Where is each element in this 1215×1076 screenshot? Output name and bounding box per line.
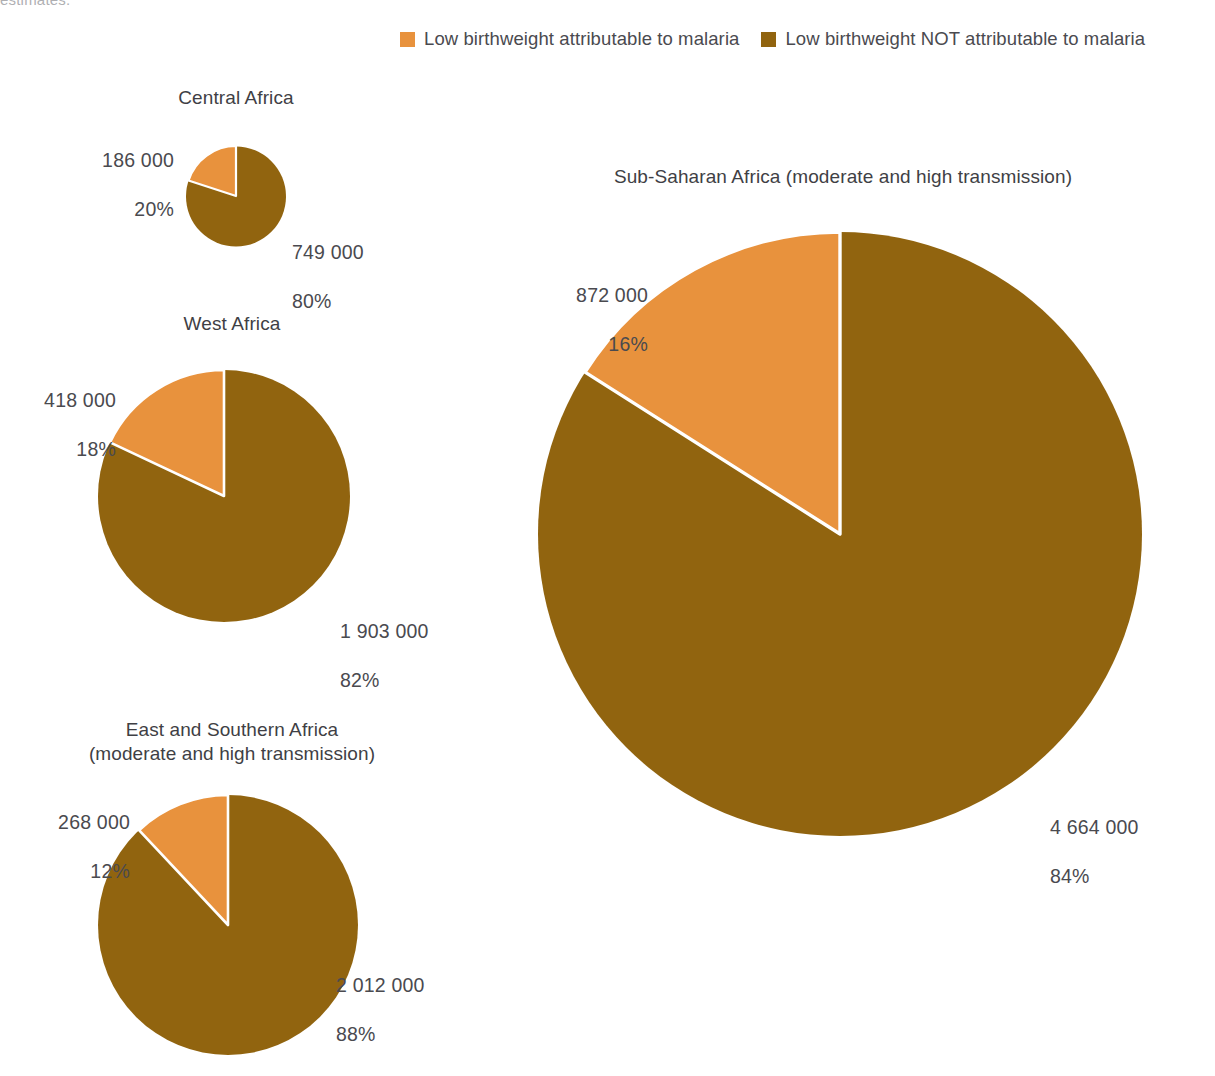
- pie-title-west-africa: West Africa: [124, 312, 340, 336]
- pie-svg-east-southern-africa: [98, 795, 358, 1055]
- pie-value-sub-saharan-africa-attributable: 872 000 16%: [540, 258, 648, 381]
- value-percent: 82%: [340, 668, 460, 693]
- pie-svg-west-africa: [98, 370, 350, 622]
- pie-value-east-southern-africa-attributable: 268 000 12%: [18, 785, 130, 908]
- pie-value-central-africa-attributable: 186 000 20%: [62, 123, 174, 246]
- pie-title-east-southern-africa: East and Southern Africa (moderate and h…: [58, 718, 406, 767]
- pie-chart-central-africa[interactable]: [186, 146, 286, 247]
- value-number: 1 903 000: [340, 619, 460, 644]
- legend-item-attributable[interactable]: Low birthweight attributable to malaria: [400, 30, 739, 49]
- value-percent: 20%: [62, 197, 174, 222]
- pie-value-sub-saharan-africa-not-attributable: 4 664 000 84%: [1050, 790, 1186, 913]
- value-percent: 80%: [292, 289, 422, 314]
- legend-label-not-attributable: Low birthweight NOT attributable to mala…: [785, 30, 1145, 49]
- pie-title-sub-saharan-africa: Sub-Saharan Africa (moderate and high tr…: [540, 165, 1146, 189]
- value-number: 418 000: [10, 388, 116, 413]
- pie-value-west-africa-not-attributable: 1 903 000 82%: [340, 594, 460, 717]
- value-percent: 12%: [18, 859, 130, 884]
- value-number: 186 000: [62, 148, 174, 173]
- pie-value-west-africa-attributable: 418 000 18%: [10, 363, 116, 486]
- legend-item-not-attributable[interactable]: Low birthweight NOT attributable to mala…: [761, 30, 1145, 49]
- value-percent: 88%: [336, 1022, 446, 1047]
- value-percent: 18%: [10, 437, 116, 462]
- pie-chart-west-africa[interactable]: [98, 370, 350, 622]
- value-percent: 16%: [540, 332, 648, 357]
- pie-chart-east-southern-africa[interactable]: [98, 795, 358, 1055]
- value-number: 749 000: [292, 240, 422, 265]
- pie-value-east-southern-africa-not-attributable: 2 012 000 88%: [336, 948, 446, 1071]
- pie-title-central-africa: Central Africa: [128, 86, 344, 110]
- value-percent: 84%: [1050, 864, 1186, 889]
- pie-svg-central-africa: [186, 146, 286, 247]
- chart-legend: Low birthweight attributable to malaria …: [400, 30, 1145, 49]
- legend-swatch-attributable: [400, 32, 415, 47]
- value-number: 4 664 000: [1050, 815, 1186, 840]
- value-number: 2 012 000: [336, 973, 446, 998]
- value-number: 872 000: [540, 283, 648, 308]
- legend-swatch-not-attributable: [761, 32, 776, 47]
- value-number: 268 000: [18, 810, 130, 835]
- cropped-header-text: estimates.: [0, 0, 70, 8]
- legend-label-attributable: Low birthweight attributable to malaria: [424, 30, 739, 49]
